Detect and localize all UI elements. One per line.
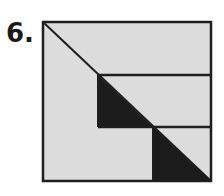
geometric-figure (0, 0, 224, 196)
